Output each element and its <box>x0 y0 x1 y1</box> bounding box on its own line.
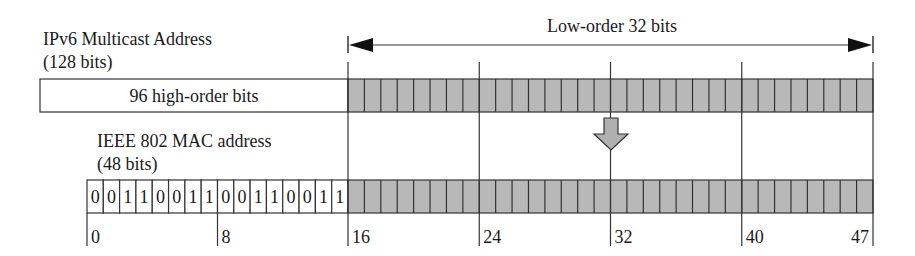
bit-tick-label: 16 <box>352 227 370 247</box>
mac-bit-value: 1 <box>335 187 344 207</box>
mac-bit-value: 0 <box>303 187 312 207</box>
arrow-right-icon <box>848 38 872 52</box>
mac-bit-value: 0 <box>221 187 230 207</box>
mac-bit-cell: 1 <box>201 180 217 213</box>
mac-subtitle: (48 bits) <box>97 154 158 175</box>
ipv6-subtitle: (128 bits) <box>43 52 113 73</box>
mac-bit-cell: 0 <box>283 180 299 213</box>
mac-bit-value: 1 <box>123 187 132 207</box>
mac-bit-cell: 0 <box>87 180 103 213</box>
mac-bit-cell: 1 <box>185 180 201 213</box>
bit-tick-label: 24 <box>483 227 501 247</box>
mac-bit-cell: 1 <box>120 180 136 213</box>
bit-tick-label: 47 <box>851 227 869 247</box>
mac-bit-value: 1 <box>270 187 279 207</box>
ipv6-title: IPv6 Multicast Address <box>43 29 212 49</box>
high-order-label: 96 high-order bits <box>130 86 259 106</box>
mac-bit-value: 1 <box>319 187 328 207</box>
mac-bit-value: 0 <box>286 187 295 207</box>
ipv6-high-order-box: 96 high-order bits <box>40 79 348 112</box>
mac-bit-value: 1 <box>140 187 149 207</box>
mac-bit-value: 0 <box>156 187 165 207</box>
mac-bit-cell: 1 <box>250 180 266 213</box>
mac-bit-value: 0 <box>237 187 246 207</box>
arrow-left-icon <box>349 38 373 52</box>
mac-prefix-bits: 0011001100110011 <box>87 180 348 213</box>
mac-bit-cell: 1 <box>332 180 348 213</box>
ipv6-to-mac-mapping-diagram: IPv6 Multicast Address (128 bits) Low-or… <box>0 0 915 256</box>
mac-bit-cell: 0 <box>299 180 315 213</box>
mac-bit-value: 0 <box>91 187 100 207</box>
mac-bit-value: 0 <box>172 187 181 207</box>
mac-bit-value: 1 <box>189 187 198 207</box>
span-arrow <box>348 36 873 53</box>
mac-bit-cell: 0 <box>103 180 119 213</box>
mac-title: IEEE 802 MAC address <box>97 131 271 151</box>
mac-bit-value: 1 <box>254 187 263 207</box>
mac-bit-cell: 0 <box>152 180 168 213</box>
mac-bit-cell: 1 <box>136 180 152 213</box>
mac-bit-cell: 1 <box>266 180 282 213</box>
mac-bit-cell: 0 <box>169 180 185 213</box>
mac-bit-value: 1 <box>205 187 214 207</box>
bit-tick-label: 32 <box>615 227 633 247</box>
low-order-label: Low-order 32 bits <box>547 16 677 36</box>
bit-tick-label: 8 <box>222 227 231 247</box>
mac-bit-cell: 0 <box>234 180 250 213</box>
mac-bit-value: 0 <box>107 187 116 207</box>
bit-tick-label: 0 <box>91 227 100 247</box>
mac-bit-cell: 1 <box>315 180 331 213</box>
mac-bit-cell: 0 <box>218 180 234 213</box>
mapping-arrow-down-icon <box>594 118 628 150</box>
bit-tick-label: 40 <box>746 227 764 247</box>
